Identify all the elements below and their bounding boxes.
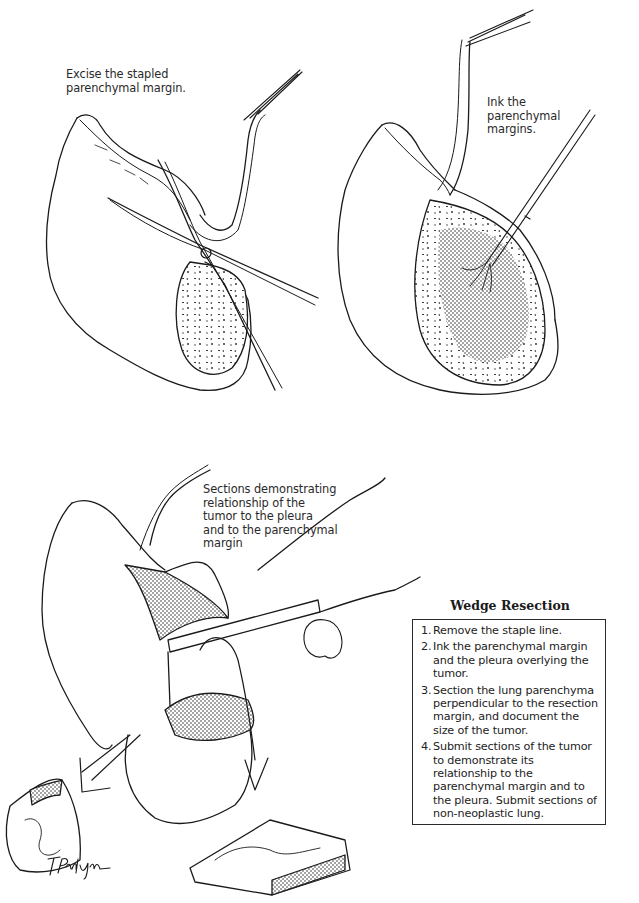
caption-ink: Ink the parenchymal margins. bbox=[487, 96, 560, 137]
procedure-step: 1. Remove the staple line. bbox=[421, 624, 601, 637]
procedure-steps-box: 1. Remove the staple line. 2. Ink the pa… bbox=[412, 619, 606, 825]
panel-ink-drawing bbox=[338, 10, 595, 394]
step-text: Submit sections of the tumor to demonstr… bbox=[433, 740, 597, 820]
procedure-step: 4. Submit sections of the tumor to demon… bbox=[421, 740, 601, 820]
panel-excise-drawing bbox=[46, 70, 318, 390]
procedure-title: Wedge Resection bbox=[412, 598, 608, 613]
step-number: 1. bbox=[421, 624, 431, 637]
step-text: Ink the parenchymal margin and the pleur… bbox=[433, 640, 588, 680]
procedure-steps-list: 1. Remove the staple line. 2. Ink the pa… bbox=[421, 624, 601, 821]
procedure-step: 2. Ink the parenchymal margin and the pl… bbox=[421, 640, 601, 680]
procedure-step: 3. Section the lung parenchyma perpendic… bbox=[421, 684, 601, 738]
step-text: Section the lung parenchyma perpendicula… bbox=[433, 684, 598, 737]
artist-signature-icon bbox=[44, 851, 124, 881]
step-number: 4. bbox=[421, 740, 431, 753]
step-number: 3. bbox=[421, 684, 431, 697]
step-number: 2. bbox=[421, 640, 431, 653]
caption-section: Sections demonstrating relationship of t… bbox=[203, 483, 338, 551]
step-text: Remove the staple line. bbox=[433, 624, 562, 637]
caption-excise: Excise the stapled parenchymal margin. bbox=[66, 68, 186, 95]
